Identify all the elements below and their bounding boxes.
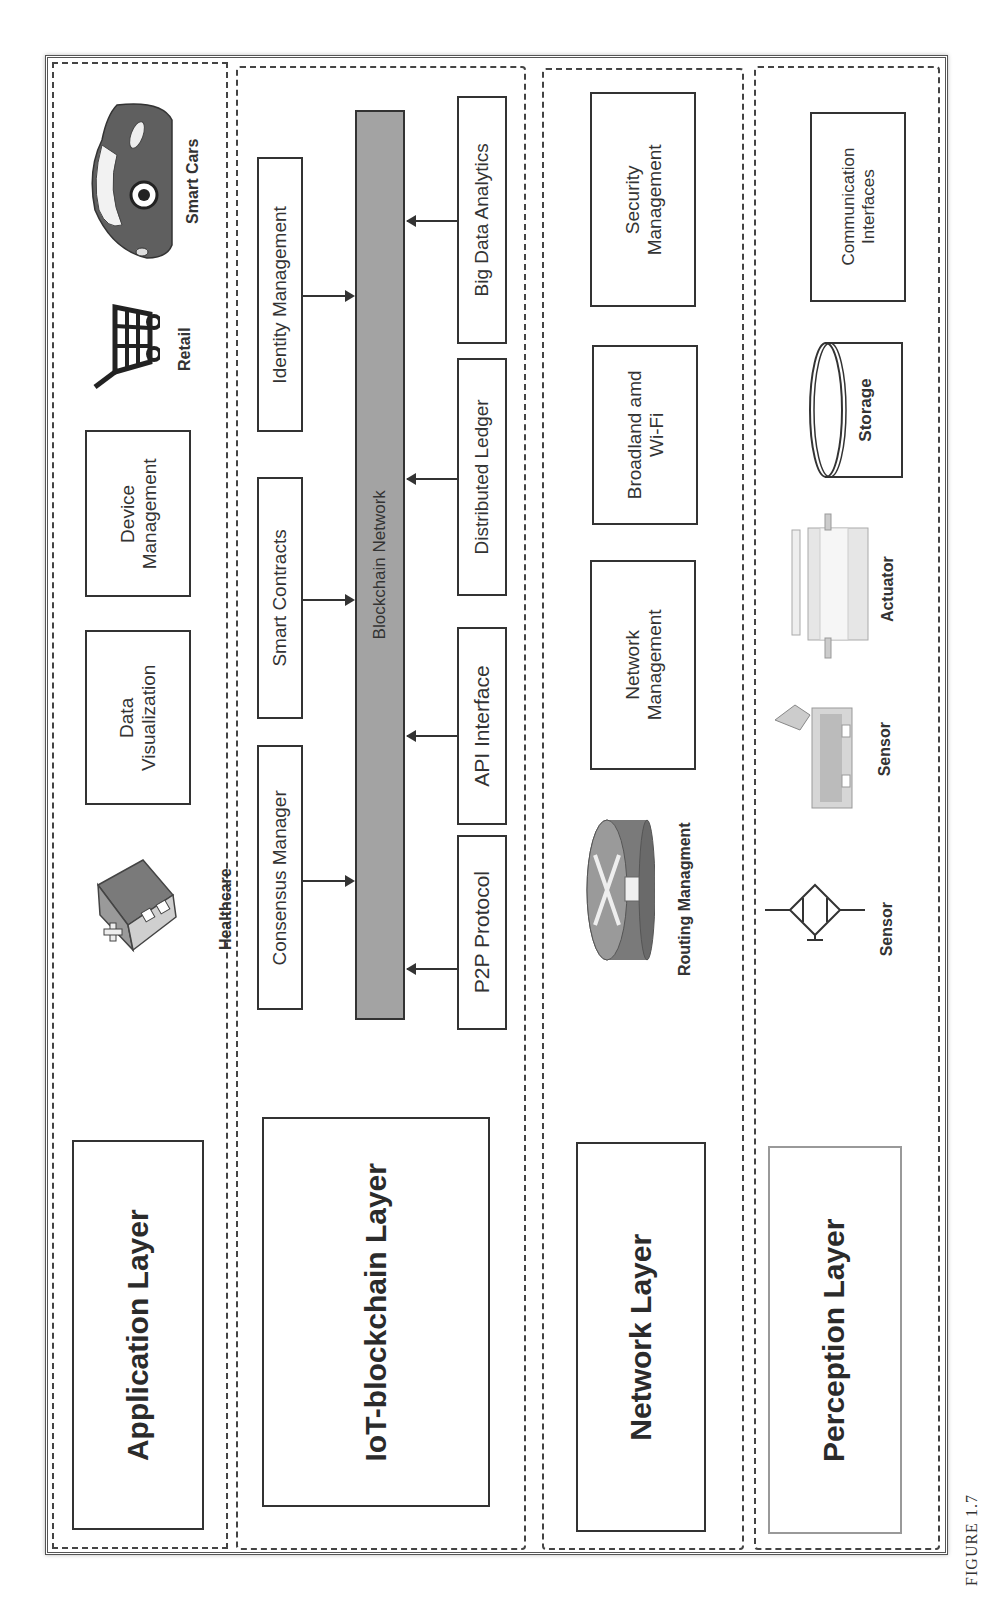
perception-layer-title-box: Perception Layer [768, 1146, 902, 1534]
identity-management-box: Identity Management [257, 157, 303, 432]
security-management-box: Security Management [590, 92, 696, 307]
smart-contracts-label: Smart Contracts [269, 529, 291, 666]
shopping-cart-icon [90, 302, 160, 392]
network-layer-title-box: Network Layer [576, 1142, 706, 1532]
p2p-protocol-label: P2P Protocol [470, 871, 494, 993]
routing-management-label: Routing Managment [676, 822, 694, 976]
blockchain-network-bar: Blockchain Network [355, 110, 405, 1020]
smart-contracts-box: Smart Contracts [257, 477, 303, 719]
retail-label: Retail [176, 327, 194, 371]
arrow-head-icon [406, 215, 416, 227]
big-data-analytics-label: Big Data Analytics [471, 143, 493, 296]
sensor-label-1: Sensor [878, 902, 896, 956]
broadland-wifi-label-line1: Broadland amd [623, 371, 645, 500]
network-management-label-line1: Network [621, 610, 643, 721]
communication-interfaces-label-line2: Interfaces [858, 148, 878, 266]
identity-management-label: Identity Management [269, 206, 291, 383]
blockchain-network-label: Blockchain Network [370, 490, 390, 639]
network-management-label-line2: Management [643, 610, 665, 721]
consensus-manager-label: Consensus Manager [269, 790, 291, 965]
smart-cars-label: Smart Cars [184, 139, 202, 224]
communication-interfaces-label-line1: Communication [838, 148, 858, 266]
network-management-box: Network Management [590, 560, 696, 770]
healthcare-label: Healthcare [217, 868, 235, 950]
sensor-device-item: Sensor [770, 700, 920, 820]
data-visualization-label-line2: Visualization [138, 664, 160, 770]
hospital-icon [88, 855, 178, 955]
perception-layer-title: Perception Layer [818, 1218, 853, 1461]
broadland-wifi-box: Broadland amd Wi-Fi [592, 345, 698, 525]
sensor-device-icon [770, 700, 860, 810]
application-layer-title-box: Application Layer [72, 1140, 204, 1530]
storage-label: Storage [856, 378, 876, 441]
security-management-label-line2: Management [643, 144, 665, 255]
consensus-manager-box: Consensus Manager [257, 745, 303, 1010]
arrow-head-icon [406, 473, 416, 485]
routing-management-item: Routing Managment [580, 800, 720, 1000]
p2p-protocol-box: P2P Protocol [457, 835, 507, 1030]
data-visualization-box: Data Visualization [85, 630, 191, 805]
device-management-box: Device Management [85, 430, 191, 597]
application-layer-title: Application Layer [121, 1209, 156, 1461]
figure-caption: FIGURE 1.7 [963, 1494, 981, 1586]
data-visualization-label-line1: Data [116, 664, 138, 770]
arrow-head-icon [406, 730, 416, 742]
iot-blockchain-layer-title-box: IoT-blockchain Layer [262, 1117, 490, 1507]
actuator-label: Actuator [879, 556, 897, 622]
device-management-label-line1: Device [116, 458, 138, 569]
smart-cars-item: Smart Cars [85, 100, 215, 270]
car-icon [87, 100, 177, 260]
retail-item: Retail [85, 300, 215, 400]
actuator-item: Actuator [790, 510, 920, 670]
storage-item: Storage [808, 340, 904, 480]
api-interface-box: API Interface [457, 627, 507, 825]
actuator-icon [790, 510, 870, 670]
api-interface-label: API Interface [470, 665, 494, 786]
router-icon [585, 815, 655, 965]
sensor-symbol-item: Sensor [765, 880, 915, 1000]
arrow-head-icon [345, 290, 355, 302]
broadland-wifi-label-line2: Wi-Fi [645, 371, 667, 500]
big-data-analytics-box: Big Data Analytics [457, 96, 507, 344]
arrow-head-icon [406, 963, 416, 975]
arrow-head-icon [345, 875, 355, 887]
healthcare-item: Healthcare [78, 850, 218, 970]
device-management-label-line2: Management [138, 458, 160, 569]
sensor-symbol-icon [765, 880, 875, 980]
communication-interfaces-box: Communication Interfaces [810, 112, 906, 302]
arrow-head-icon [345, 594, 355, 606]
iot-blockchain-layer-title: IoT-blockchain Layer [359, 1163, 394, 1461]
distributed-ledger-label: Distributed Ledger [471, 399, 493, 554]
network-layer-title: Network Layer [624, 1234, 659, 1441]
security-management-label-line1: Security [621, 144, 643, 255]
sensor-label-2: Sensor [876, 722, 894, 776]
distributed-ledger-box: Distributed Ledger [457, 358, 507, 596]
